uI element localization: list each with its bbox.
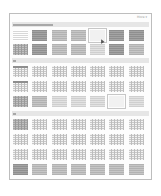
style-grid-grid-tables	[13, 66, 144, 107]
table-style-tile[interactable]	[13, 134, 28, 145]
table-style-tile[interactable]	[71, 134, 86, 145]
table-style-tile[interactable]	[32, 149, 47, 160]
table-style-tile[interactable]	[52, 134, 67, 145]
table-style-tile[interactable]	[109, 66, 124, 77]
table-style-tile[interactable]	[52, 44, 67, 55]
table-style-tile[interactable]	[129, 81, 144, 92]
table-style-tile[interactable]	[109, 119, 124, 130]
gallery-top-bar: More ▾	[10, 14, 151, 22]
table-style-tile[interactable]	[109, 134, 124, 145]
section-header-plain-tables	[12, 22, 149, 27]
table-style-tile[interactable]	[52, 30, 67, 41]
table-style-tile[interactable]	[129, 44, 144, 55]
table-style-tile[interactable]	[90, 119, 105, 130]
table-style-tile[interactable]	[71, 81, 86, 92]
table-style-tile[interactable]	[90, 164, 105, 175]
table-style-tile[interactable]	[109, 44, 124, 55]
table-style-tile[interactable]	[13, 81, 28, 92]
table-style-tile[interactable]	[129, 30, 144, 41]
table-style-tile[interactable]	[13, 149, 28, 160]
table-style-tile[interactable]	[32, 96, 47, 107]
table-style-tile[interactable]	[71, 164, 86, 175]
section-header-grid-tables	[12, 58, 149, 63]
table-style-tile[interactable]	[109, 96, 124, 107]
section-label-bar	[13, 24, 53, 26]
table-style-tile[interactable]	[90, 66, 105, 77]
table-style-tile[interactable]	[32, 119, 47, 130]
table-style-tile[interactable]	[32, 134, 47, 145]
table-style-tile[interactable]	[52, 119, 67, 130]
table-style-tile[interactable]	[109, 81, 124, 92]
table-style-tile[interactable]	[90, 149, 105, 160]
more-styles-button[interactable]: More ▾	[137, 15, 147, 20]
table-style-tile[interactable]	[52, 66, 67, 77]
mouse-cursor-icon	[100, 38, 105, 43]
table-style-tile[interactable]	[52, 164, 67, 175]
table-style-tile[interactable]	[90, 96, 105, 107]
table-style-tile[interactable]	[32, 164, 47, 175]
table-style-tile[interactable]	[109, 164, 124, 175]
table-style-tile[interactable]	[32, 30, 47, 41]
table-style-tile[interactable]	[71, 149, 86, 160]
table-style-tile[interactable]	[71, 96, 86, 107]
table-style-tile[interactable]	[71, 66, 86, 77]
table-style-tile[interactable]	[52, 81, 67, 92]
table-style-tile[interactable]	[129, 66, 144, 77]
table-style-tile[interactable]	[13, 44, 28, 55]
table-style-tile[interactable]	[32, 81, 47, 92]
table-style-tile[interactable]	[90, 30, 105, 41]
table-style-tile[interactable]	[52, 149, 67, 160]
table-style-tile[interactable]	[13, 119, 28, 130]
table-style-tile[interactable]	[129, 119, 144, 130]
table-style-tile[interactable]	[13, 164, 28, 175]
table-style-tile[interactable]	[71, 30, 86, 41]
table-style-tile[interactable]	[129, 164, 144, 175]
table-style-tile[interactable]	[52, 96, 67, 107]
table-style-tile[interactable]	[13, 66, 28, 77]
table-styles-gallery: More ▾	[9, 13, 152, 180]
section-label-bar	[13, 60, 16, 62]
style-grid-plain-tables	[13, 30, 144, 55]
table-style-tile[interactable]	[32, 66, 47, 77]
table-style-tile[interactable]	[71, 44, 86, 55]
table-style-tile[interactable]	[90, 134, 105, 145]
table-style-tile[interactable]	[109, 149, 124, 160]
table-style-tile[interactable]	[90, 44, 105, 55]
table-style-tile[interactable]	[129, 134, 144, 145]
table-style-tile[interactable]	[13, 96, 28, 107]
table-style-tile[interactable]	[32, 44, 47, 55]
table-style-tile[interactable]	[90, 81, 105, 92]
table-style-tile[interactable]	[129, 96, 144, 107]
table-style-tile[interactable]	[71, 119, 86, 130]
style-grid-list-tables	[13, 119, 144, 175]
table-style-tile[interactable]	[13, 30, 28, 41]
table-style-tile[interactable]	[129, 149, 144, 160]
section-label-bar	[13, 113, 16, 115]
section-header-list-tables	[12, 111, 149, 116]
table-style-tile[interactable]	[109, 30, 124, 41]
